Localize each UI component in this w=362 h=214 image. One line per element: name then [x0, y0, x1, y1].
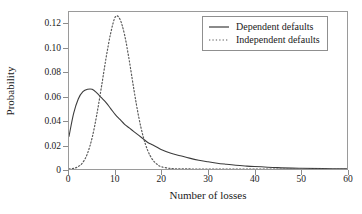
- x-axis-tick-mark: [255, 170, 256, 175]
- x-axis-tick-label: 30: [193, 174, 223, 185]
- x-axis-title: Number of losses: [68, 189, 348, 201]
- y-axis-title: Probability: [2, 0, 18, 182]
- legend-item: Dependent defaults: [208, 20, 320, 33]
- x-axis-tick-mark: [348, 170, 349, 175]
- y-axis-tick-mark: [63, 72, 68, 73]
- x-axis-tick-label: 20: [146, 174, 176, 185]
- y-axis-tick-mark: [63, 146, 68, 147]
- series-line-1: [69, 89, 347, 169]
- x-axis-tick-label: 40: [240, 174, 270, 185]
- x-axis-tick-label: 0: [53, 174, 83, 185]
- y-axis-tick-label: 0.02: [44, 141, 61, 151]
- y-axis-tick-label: 0.04: [44, 116, 61, 126]
- x-axis-tick-mark: [68, 170, 69, 175]
- y-axis-tick-label: 0.10: [44, 43, 61, 53]
- y-axis-tick-label: 0.12: [44, 18, 61, 28]
- x-axis-tick-label: 60: [333, 174, 362, 185]
- y-axis-tick-mark: [63, 121, 68, 122]
- legend-line-sample-solid: [208, 22, 230, 32]
- y-axis-tick-mark: [63, 48, 68, 49]
- chart-legend: Dependent defaultsIndependent defaults: [202, 16, 328, 51]
- y-axis-tick-label: 0.08: [44, 67, 61, 77]
- x-axis-tick-mark: [115, 170, 116, 175]
- legend-item: Independent defaults: [208, 33, 320, 46]
- x-axis-tick-label: 10: [100, 174, 130, 185]
- legend-item-label: Dependent defaults: [236, 21, 313, 33]
- x-axis-tick-mark: [208, 170, 209, 175]
- y-axis-tick-mark: [63, 23, 68, 24]
- y-axis-tick-mark: [63, 97, 68, 98]
- probability-distribution-chart: 00.020.040.060.080.100.12 Probability 01…: [0, 0, 362, 214]
- x-axis-tick-mark: [301, 170, 302, 175]
- y-axis-title-text: Probability: [4, 67, 16, 116]
- x-axis-tick-mark: [161, 170, 162, 175]
- y-axis-tick-label: 0.06: [44, 92, 61, 102]
- x-axis-tick-label: 50: [286, 174, 316, 185]
- legend-line-sample-dotted: [208, 35, 230, 45]
- legend-item-label: Independent defaults: [236, 34, 320, 46]
